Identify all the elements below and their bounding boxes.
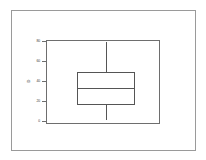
y-tick-label: 0 xyxy=(28,119,40,123)
y-tick-label: 60 xyxy=(28,59,40,63)
boxplot-median-line xyxy=(77,88,135,89)
y-axis-title: D xyxy=(22,74,36,88)
y-tick-mark xyxy=(42,121,46,122)
y-tick-label: 80 xyxy=(28,39,40,43)
y-tick-label-text: 20 xyxy=(28,99,40,103)
y-tick-label: 20 xyxy=(28,99,40,103)
y-tick-label-text: 80 xyxy=(28,39,40,43)
y-tick-mark xyxy=(42,41,46,42)
figure-screenshot: 806040200 D xyxy=(0,0,206,160)
y-tick-label-text: 0 xyxy=(28,119,40,123)
y-tick-mark xyxy=(42,81,46,82)
y-tick-label-text: 60 xyxy=(28,59,40,63)
y-tick-mark xyxy=(42,61,46,62)
y-tick-mark xyxy=(42,101,46,102)
